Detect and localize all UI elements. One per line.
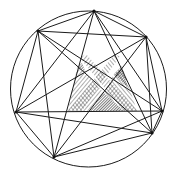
vertex-B	[92, 9, 95, 12]
chord-FE	[54, 111, 162, 157]
vertex-D	[14, 110, 17, 113]
vertex-E	[52, 155, 55, 158]
chord-ED	[16, 112, 54, 157]
vertex-C	[144, 35, 147, 38]
vertex-G	[150, 131, 153, 134]
vertex-A	[36, 29, 39, 32]
chord-AD	[16, 31, 38, 112]
chord-AC	[38, 31, 146, 37]
vertex-F	[160, 109, 163, 112]
inscribed-heptagon-diagram	[0, 0, 175, 178]
chord-FD	[16, 111, 162, 112]
chord-BC	[94, 11, 146, 37]
chord-AE	[38, 31, 54, 157]
